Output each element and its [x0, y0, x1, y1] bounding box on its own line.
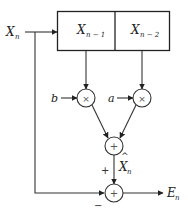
- input-label: X n: [5, 25, 20, 41]
- error-adder: +: [105, 184, 123, 202]
- minus-sign-label: −: [94, 200, 102, 211]
- svg-text:+: +: [110, 141, 118, 152]
- prediction-label: ^ X n: [118, 151, 132, 176]
- output-label: E n: [166, 186, 180, 202]
- plus-sign-label: +: [101, 165, 109, 176]
- block-diagram: X n X n − 1 X n − 2 b × a ×: [0, 0, 188, 212]
- wire-mult-a-to-adder: [120, 105, 136, 138]
- svg-text:n: n: [15, 33, 20, 41]
- wire-mult-b-to-adder: [92, 105, 108, 138]
- bypass-wire: [35, 32, 104, 193]
- svg-text:n: n: [127, 168, 132, 176]
- svg-text:X: X: [130, 23, 140, 37]
- svg-text:n − 1: n − 1: [86, 31, 105, 39]
- svg-text:X: X: [5, 25, 15, 39]
- svg-text:×: ×: [82, 94, 90, 104]
- coefficient-b-label: b: [51, 92, 58, 105]
- multiplier-b: b ×: [51, 89, 95, 107]
- svg-text:+: +: [110, 188, 118, 199]
- svg-text:×: ×: [138, 94, 146, 104]
- svg-text:n − 2: n − 2: [140, 31, 160, 39]
- coefficient-a-label: a: [108, 92, 115, 105]
- delay-register: X n − 1 X n − 2: [58, 12, 170, 51]
- multiplier-a: a ×: [108, 89, 151, 107]
- svg-text:n: n: [175, 194, 180, 202]
- svg-text:X: X: [76, 23, 86, 37]
